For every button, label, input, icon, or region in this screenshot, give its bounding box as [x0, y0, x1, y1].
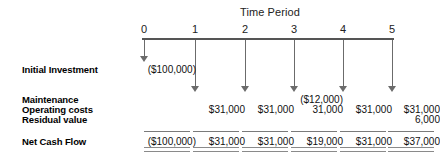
- subtotal-rule-period-1: [193, 131, 239, 132]
- row-label-initial-investment: Initial Investment: [22, 64, 98, 75]
- axis-tick-label-4: 4: [333, 23, 353, 35]
- axis-tick-label-0: 0: [134, 23, 154, 35]
- value-operating-costs-period-1: $31,000: [193, 104, 245, 115]
- value-operating-costs-period-2: $31,000: [242, 104, 294, 115]
- cash-flow-arrow-period-0: [140, 40, 149, 62]
- row-label-net-cash-flow: Net Cash Flow: [22, 136, 86, 147]
- value-net-cash-flow-period-2: $31,000: [242, 136, 294, 147]
- axis-tick-label-1: 1: [185, 23, 205, 35]
- value-net-cash-flow-period-0: ($100,000): [144, 136, 196, 147]
- subtotal-rule-period-5: [388, 131, 434, 132]
- value-net-cash-flow-period-4: $31,000: [340, 136, 392, 147]
- value-initial-investment-period-0: ($100,000): [144, 64, 196, 75]
- cash-flow-arrow-period-3: [290, 40, 299, 92]
- value-net-cash-flow-period-5: $37,000: [388, 136, 440, 147]
- row-label-residual-value: Residual value: [22, 114, 87, 125]
- timeline-axis: [142, 38, 394, 40]
- total-rule-period-0: [144, 147, 190, 152]
- value-operating-costs-period-3: 31,000: [291, 104, 343, 115]
- value-net-cash-flow-period-1: $31,000: [193, 136, 245, 147]
- axis-tick-label-3: 3: [284, 23, 304, 35]
- subtotal-rule-period-4: [340, 131, 386, 132]
- subtotal-rule-period-0: [144, 131, 190, 132]
- total-rule-period-2: [242, 147, 288, 152]
- subtotal-rule-period-2: [242, 131, 288, 132]
- value-operating-costs-period-4: $31,000: [340, 104, 392, 115]
- chart-title: Time Period: [0, 6, 428, 18]
- value-net-cash-flow-period-3: $19,000: [291, 136, 343, 147]
- subtotal-rule-period-3: [291, 131, 337, 132]
- value-residual-value-period-5: 6,000: [388, 114, 440, 125]
- total-rule-period-3: [291, 147, 337, 152]
- total-rule-period-1: [193, 147, 239, 152]
- axis-tick-label-2: 2: [235, 23, 255, 35]
- cash-flow-arrow-period-2: [241, 40, 250, 92]
- axis-tick-label-5: 5: [382, 23, 402, 35]
- cash-flow-arrow-period-5: [388, 40, 397, 92]
- total-rule-period-4: [340, 147, 386, 152]
- total-rule-period-5: [388, 147, 434, 152]
- cash-flow-arrow-period-4: [339, 40, 348, 92]
